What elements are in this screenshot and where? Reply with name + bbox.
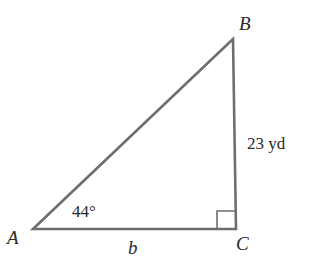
vertex-label-c: C [236, 233, 249, 254]
triangle-diagram: B A C 44° 23 yd b [0, 0, 320, 264]
triangle-abc [33, 39, 236, 229]
side-ac-label: b [128, 237, 138, 258]
right-angle-marker [217, 211, 236, 229]
vertex-label-b: B [239, 13, 251, 34]
side-bc-length: 23 yd [247, 134, 286, 153]
angle-a-label: 44° [72, 202, 96, 221]
vertex-label-a: A [5, 227, 19, 248]
